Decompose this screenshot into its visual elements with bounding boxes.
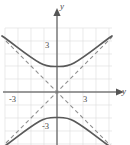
hyperbola-graph-figure: y y 3 -3 -3 3	[0, 0, 130, 145]
plot-canvas	[0, 0, 130, 145]
tick-label-y-negative-3: -3	[42, 122, 49, 131]
tick-label-y-positive-3: 3	[45, 41, 49, 50]
tick-label-x-positive-3: 3	[83, 95, 87, 104]
y-axis-label: y	[60, 2, 64, 11]
tick-label-x-negative-3: -3	[9, 95, 16, 104]
x-axis	[3, 88, 124, 95]
y-axis	[53, 8, 60, 145]
x-axis-label: y	[122, 87, 126, 96]
